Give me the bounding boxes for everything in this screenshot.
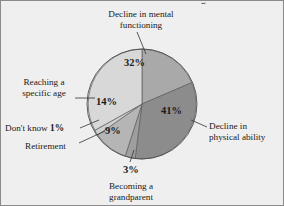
slice-label-grandparent: Becoming a grandparent (85, 181, 177, 202)
slice-label-retirement: Retirement (25, 141, 66, 152)
slice-percent-decline-physical: 41% (161, 105, 182, 116)
slice-label-grandparent-line2: grandparent (109, 192, 153, 202)
slice-label-retirement-text: Retirement (25, 141, 66, 151)
slice-percent-reaching-age: 14% (96, 96, 117, 107)
slice-label-decline-mental: Decline in mental functioning (89, 9, 193, 30)
slice-percent-decline-mental: 32% (124, 57, 145, 68)
slice-label-dont-know: Don't know 1% (5, 123, 64, 134)
pie-chart-graphic (1, 1, 284, 206)
pie-chart-figure: Americans' Definition of Old Age (0, 0, 284, 206)
slice-percent-retirement: 9% (105, 125, 121, 136)
slice-label-decline-mental-line1: Decline in mental (108, 9, 173, 19)
slice-label-decline-physical: Decline in physical ability (209, 121, 284, 142)
slice-label-decline-mental-line2: functioning (120, 20, 162, 30)
slice-label-decline-physical-line2: physical ability (209, 132, 265, 142)
slice-label-decline-physical-line1: Decline in (209, 121, 247, 131)
slice-label-dont-know-text: Don't know (5, 123, 48, 133)
slice-label-reaching-age: Reaching a specific age (7, 77, 81, 98)
slice-label-grandparent-line1: Becoming a (109, 181, 153, 191)
slice-label-reaching-age-line2: specific age (22, 88, 66, 98)
slice-percent-dont-know: 1% (50, 123, 64, 133)
slice-percent-grandparent: 3% (123, 164, 139, 175)
slice-label-reaching-age-line1: Reaching a (23, 77, 64, 87)
